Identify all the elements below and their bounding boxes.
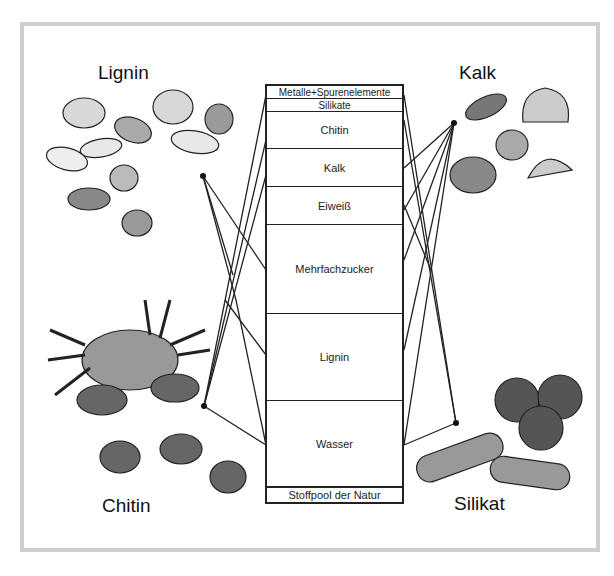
shells-icon: [450, 88, 572, 193]
pool-row-lignin: Lignin: [267, 314, 402, 401]
group-label-chitin: Chitin: [102, 495, 151, 517]
lignin-node: [200, 173, 206, 179]
pool-row-eiweiss: Eiweiß: [267, 187, 402, 225]
pool-row-wasser: Wasser: [267, 401, 402, 487]
kalk-node: [451, 120, 457, 126]
pool-row-metalle: Metalle+Spurenelemente: [267, 86, 402, 99]
group-label-kalk: Kalk: [459, 62, 496, 84]
chitin-node: [201, 403, 207, 409]
stoffpool-box: Metalle+Spurenelemente Silikate Chitin K…: [265, 84, 404, 504]
pool-row-mehrfachzucker: Mehrfachzucker: [267, 225, 402, 314]
group-label-lignin: Lignin: [98, 62, 149, 84]
pool-row-kalk: Kalk: [267, 149, 402, 187]
pool-row-silikate: Silikate: [267, 99, 402, 112]
crab-icon: [48, 300, 246, 493]
nuts-icon: [44, 90, 233, 236]
pool-title: Stoffpool der Natur: [267, 487, 402, 502]
sponges-icon: [413, 375, 582, 491]
pool-row-chitin: Chitin: [267, 112, 402, 149]
group-label-silikat: Silikat: [454, 493, 505, 515]
silikat-node: [453, 420, 459, 426]
